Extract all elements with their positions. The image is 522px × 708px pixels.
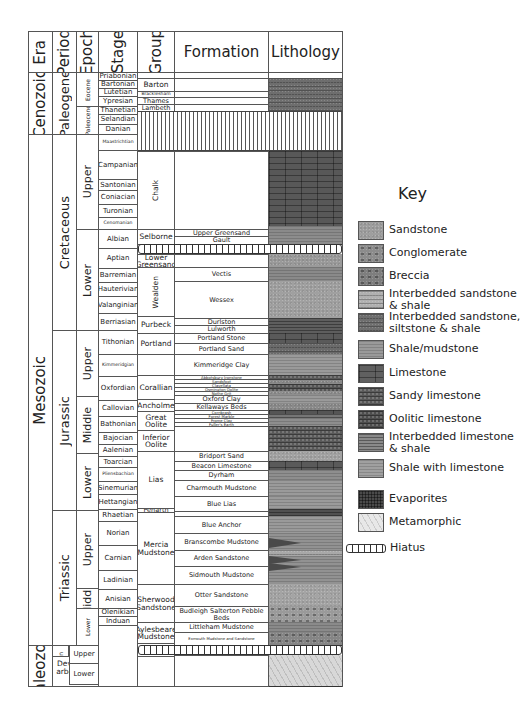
header-group-label: Group xyxy=(149,31,164,73)
lithology-band-interbedded-sandstone-siltstone-shale xyxy=(269,78,342,112)
stage-cell: Callovian xyxy=(98,400,138,417)
key-swatch-shale-with-limestone xyxy=(358,459,384,478)
epoch-cell: Upper xyxy=(69,645,99,664)
lithology-band-shale-with-limestone xyxy=(269,496,342,510)
period-cell: Triassic xyxy=(52,510,77,646)
epoch-label: Lower xyxy=(85,618,91,636)
group-label: Selborne xyxy=(139,233,172,241)
header-period-label: Period xyxy=(57,31,72,73)
stage-cell: Norian xyxy=(98,521,138,546)
stage-cell: Kimmeridgian xyxy=(98,354,138,377)
epoch-cell: Lower xyxy=(76,229,99,331)
stage-cell-empty xyxy=(98,625,138,687)
key-swatch-sandstone xyxy=(358,221,384,240)
group-cell: Lias xyxy=(137,451,175,509)
hiatus-line xyxy=(138,244,342,254)
header-era-label: Era xyxy=(33,40,48,65)
period-label: Triassic xyxy=(58,554,71,601)
group-label: Aylesbeare Mudstone xyxy=(137,626,175,641)
era-cell: Cenozoic xyxy=(28,72,53,135)
header-group: Group xyxy=(137,31,175,73)
key-swatch-limestone xyxy=(358,364,384,383)
lithology-band-shale-mudstone xyxy=(269,480,342,497)
group-cell: Corallian xyxy=(137,375,175,400)
formation-cell: Vectis xyxy=(174,267,269,282)
group-cell: Portland xyxy=(137,333,175,355)
stage-cell: Pliensbachian xyxy=(98,467,138,482)
formation-cell xyxy=(174,426,269,452)
stage-cell: Barremian xyxy=(98,268,138,283)
epoch-label: Upper xyxy=(82,533,93,566)
epoch-label: Lower xyxy=(82,466,93,499)
stage-cell: Anisian xyxy=(98,589,138,609)
key-swatch-interbedded-sandstone-siltstone-shale xyxy=(358,313,384,332)
key-swatch-oolitic-limestone xyxy=(358,410,384,429)
stage-cell: Aptian xyxy=(98,248,138,269)
period-label: Jurassic xyxy=(58,396,71,446)
key-label-breccia: Breccia xyxy=(389,270,430,282)
era-label: Paleozoic xyxy=(33,645,48,687)
key-label-oolitic-limestone: Oolitic limestone xyxy=(389,413,482,425)
key-label-metamorphic: Metamorphic xyxy=(389,516,461,528)
formation-cell: Otter Sandstone xyxy=(174,584,269,607)
group-cell: Wealden xyxy=(137,267,175,317)
key-label-sandstone: Sandstone xyxy=(389,224,447,236)
key-swatch-conglomerate xyxy=(358,244,384,263)
interfinger-wedge xyxy=(269,538,301,548)
epoch-cell: Middle xyxy=(76,396,99,454)
group-label: Lower Greensand xyxy=(137,254,175,268)
formation-cell: Kimmeridge Clay xyxy=(174,354,269,376)
era-label: Cenozoic xyxy=(33,72,48,135)
key-label-shale-mudstone: Shale/mudstone xyxy=(389,343,478,355)
key-title: Key xyxy=(398,184,427,203)
group-label: Portland xyxy=(140,340,171,348)
key-swatch-shale-mudstone xyxy=(358,340,384,359)
formation-cell xyxy=(174,78,269,92)
header-lithology: Lithology xyxy=(268,31,343,73)
formation-cell: Budleigh Salterton Pebble Beds xyxy=(174,606,269,623)
stage-cell: Maastrichtian xyxy=(98,134,138,151)
formation-cell: Arden Sandstone xyxy=(174,550,269,567)
key-label-interbedded-limestone-shale: Interbedded limestone & shale xyxy=(389,431,514,455)
group-cell: Selborne xyxy=(137,229,175,245)
lithology-band-oolitic-limestone xyxy=(269,426,342,452)
key-swatch-sandy-limestone xyxy=(358,387,384,406)
formation-cell xyxy=(174,254,269,268)
key-label-hiatus: Hiatus xyxy=(390,542,425,554)
lithology-band-breccia xyxy=(269,632,342,646)
header-epoch-label: Epoch xyxy=(80,31,95,73)
lithology-band-metamorphic xyxy=(269,655,342,687)
header-epoch: Epoch xyxy=(76,31,99,73)
key-label-evaporites: Evaporites xyxy=(389,493,447,505)
epoch-cell: Upper xyxy=(76,134,99,230)
stage-cell: Berriasian xyxy=(98,313,138,331)
formation-cell xyxy=(174,151,269,230)
group-label: Barton xyxy=(143,81,168,89)
lithology-band-limestone xyxy=(269,151,342,227)
epoch-cell: Middle xyxy=(76,588,99,609)
header-formation: Formation xyxy=(174,31,269,73)
formation-cell: Blue Anchor xyxy=(174,516,269,534)
stage-cell: Sinemurian xyxy=(98,481,138,495)
key-swatch-interbedded-limestone-shale xyxy=(358,433,384,452)
formation-cell: Exmouth Mudstone and Sandstone xyxy=(174,632,269,646)
lithology-band-sandstone xyxy=(269,281,342,319)
key-label-conglomerate: Conglomerate xyxy=(389,247,467,259)
hiatus-line xyxy=(138,645,342,655)
header-stage: Stage xyxy=(98,31,138,73)
key-label-sandy-limestone: Sandy limestone xyxy=(389,390,481,402)
stage-cell: Valanginian xyxy=(98,296,138,314)
epoch-label: Paleocene xyxy=(85,106,91,135)
formation-cell: Blue Lias xyxy=(174,496,269,512)
lithology-band-shale-mudstone xyxy=(269,267,342,282)
stage-cell: Turonian xyxy=(98,204,138,218)
key-label-shale-with-limestone: Shale with limestone xyxy=(389,462,504,474)
group-cell: Great Oolite xyxy=(137,411,175,431)
epoch-cell: Lower xyxy=(76,608,99,646)
stage-cell: Hauterivian xyxy=(98,282,138,297)
stage-cell: Coniacian xyxy=(98,190,138,205)
key-swatch-metamorphic xyxy=(358,513,384,532)
interfinger-wedge xyxy=(269,563,301,571)
legend-key: KeySandstoneConglomerateBrecciaInterbedd… xyxy=(340,160,522,600)
epoch-cell: Lower xyxy=(76,453,99,511)
